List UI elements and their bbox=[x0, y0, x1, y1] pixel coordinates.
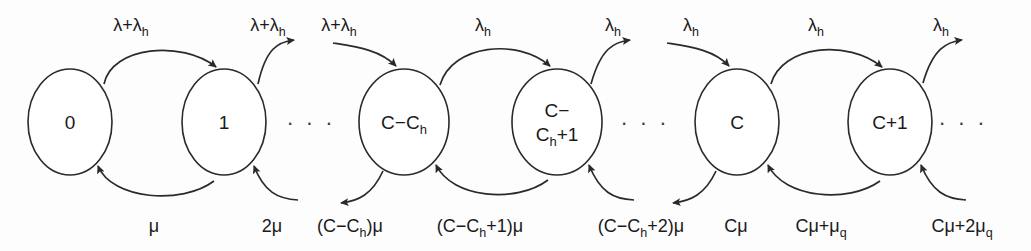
service-rate-label-7: Cμ+μq bbox=[795, 216, 846, 240]
arc-service-next-to-C1 bbox=[921, 165, 966, 200]
service-rate-labels: μ 2μ (C−Ch)μ (C−Ch+1)μ (C−Ch+2)μ Cμ Cμ+μ… bbox=[149, 216, 993, 240]
arrival-rate-label-8: λh bbox=[933, 15, 949, 39]
arc-service-next-to-CCh1 bbox=[589, 165, 634, 200]
arc-service-C1-to-C bbox=[768, 165, 880, 195]
arc-arrival-prev-to-C bbox=[667, 43, 729, 66]
state-label-c-minus-ch-plus-1-line1: C− bbox=[545, 100, 570, 121]
state-nodes bbox=[28, 69, 932, 175]
arrival-rate-labels: λ+λh λ+λh λ+λh λh λh λh λh λh bbox=[113, 15, 949, 39]
ellipsis-gap-2: · · · bbox=[620, 110, 669, 135]
state-label-c-minus-ch-main: C−C bbox=[381, 112, 420, 133]
arrival-rate-label-1: λ+λh bbox=[113, 15, 149, 39]
arc-arrival-CCh1-to-next bbox=[591, 40, 630, 84]
service-rate-label-1: μ bbox=[149, 216, 159, 236]
arrival-rate-label-3: λ+λh bbox=[321, 15, 357, 39]
arc-service-C-to-prev bbox=[673, 171, 716, 203]
state-label-1: 1 bbox=[219, 112, 230, 133]
arc-service-next-to-1 bbox=[254, 166, 298, 200]
service-rate-label-6: Cμ bbox=[724, 216, 747, 236]
service-rate-label-2: 2μ bbox=[262, 216, 282, 236]
ellipsis-gap-3: · · · bbox=[938, 110, 987, 135]
state-node-c-minus-ch-plus-1[interactable] bbox=[512, 69, 602, 175]
arrival-rate-label-2: λ+λh bbox=[250, 15, 286, 39]
service-rate-label-5: (C−Ch+2)μ bbox=[598, 216, 684, 240]
arc-service-1-to-0 bbox=[98, 166, 214, 196]
arrival-rate-label-6: λh bbox=[683, 15, 699, 39]
service-rate-label-8: Cμ+2μq bbox=[931, 216, 992, 240]
state-label-0: 0 bbox=[65, 112, 76, 133]
diagram-canvas: 0 1 C−Ch C− Ch+1 C C+1 · · · · · · · · ·… bbox=[0, 0, 1031, 251]
arrival-rate-label-7: λh bbox=[808, 15, 824, 39]
service-rate-label-4: (C−Ch+1)μ bbox=[437, 216, 523, 240]
state-label-c-minus-ch-subscript: h bbox=[420, 122, 427, 137]
ellipsis-gap-1: · · · bbox=[286, 110, 335, 135]
state-label-c: C bbox=[730, 112, 744, 133]
arrival-rate-label-5: λh bbox=[605, 15, 621, 39]
state-transition-diagram: 0 1 C−Ch C− Ch+1 C C+1 · · · · · · · · ·… bbox=[0, 0, 1031, 251]
arc-service-CCh-to-prev bbox=[341, 171, 383, 203]
arc-arrival-C1-to-next bbox=[923, 40, 962, 83]
arc-arrival-1-to-next bbox=[258, 40, 294, 84]
state-label-c-plus-1: C+1 bbox=[872, 112, 907, 133]
arrival-rate-label-4: λh bbox=[475, 15, 491, 39]
service-rate-label-3: (C−Ch)μ bbox=[317, 216, 383, 240]
arc-arrival-prev-to-CCh bbox=[333, 43, 396, 66]
arc-service-CCh1-to-CCh bbox=[436, 165, 548, 195]
